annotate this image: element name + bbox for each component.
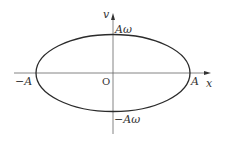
x-axis-arrow-icon — [204, 71, 211, 75]
label-pos-a-omega: Aω — [115, 24, 132, 35]
label-pos-a: A — [191, 76, 199, 87]
label-neg-a: −A — [15, 76, 32, 87]
v-axis-arrow-icon — [111, 13, 115, 20]
diagram-canvas — [0, 0, 226, 142]
phase-diagram: v Aω −A O A x −Aω — [0, 0, 226, 142]
label-neg-a-omega: −Aω — [114, 114, 140, 125]
x-axis-label: x — [206, 78, 212, 89]
origin-label: O — [102, 77, 110, 87]
v-axis-label: v — [103, 9, 109, 20]
